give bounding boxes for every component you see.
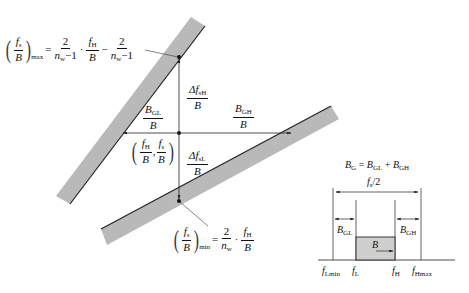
bgh-den: B [240, 118, 247, 130]
bgh-num: B [235, 102, 242, 114]
min-lhs-den: B [183, 241, 190, 253]
delta-fsh-label: ΔfsHB [186, 84, 209, 111]
lower-constraint-band [101, 106, 339, 245]
delta-fsh-num: Δf [189, 83, 199, 95]
max-t2-den: B [89, 51, 96, 63]
min-t1-den-sub: w [227, 245, 232, 253]
min-dot: · [235, 234, 239, 245]
delta-fsl-num: Δf [189, 149, 199, 161]
point-sep: , [153, 146, 156, 157]
point-y-den: B [158, 153, 165, 165]
bgl-num: B [145, 103, 152, 115]
max-lhs-den: B [15, 51, 22, 63]
inset-bgl-sub: GL [343, 229, 352, 237]
max-lhs-num-sub: s [19, 41, 22, 49]
delta-fsh-sub: sH [199, 89, 207, 97]
max-t1-den-tail: −1 [65, 49, 77, 61]
operating-point [177, 131, 181, 135]
bgh-sub: GH [242, 108, 252, 116]
bg-plus: + [385, 159, 391, 170]
point-x-sub: H [145, 143, 150, 151]
min-t1-num: 2 [222, 226, 232, 239]
min-equals: = [212, 234, 218, 245]
tick-fh: fH [392, 266, 400, 278]
tick-fl: fL [352, 266, 359, 278]
max-formula: ( fsB ) max = 2nw−1 · fHB − 2nw−1 [4, 36, 134, 63]
bg-sub: G [351, 164, 356, 172]
max-t2-num-sub: H [91, 41, 96, 49]
delta-fsl-sub: sL [199, 155, 206, 163]
bg-bgl-sub: GL [373, 164, 382, 172]
bgl-ratio-label: BGLB [142, 104, 164, 131]
delta-fsh-den: B [194, 99, 201, 111]
half-fs-label: fs/2 [367, 177, 380, 189]
point-y-sub: s [162, 143, 165, 151]
bgl-sub: GL [152, 109, 161, 117]
min-lhs-num-sub: s [187, 231, 190, 239]
bgh-ratio-label: BGHB [232, 103, 255, 130]
max-t3-den-tail: −1 [121, 49, 133, 61]
tick-flmin-sub: Lmin [325, 270, 340, 278]
min-t2-num-sub: H [247, 231, 252, 239]
max-equals: = [45, 44, 51, 55]
inset-bgl-label: BGL [337, 225, 352, 237]
max-minus: − [102, 44, 108, 55]
delta-fsl-den: B [194, 165, 201, 177]
operating-point-label: ( fHB , fsB ) [130, 138, 176, 165]
tick-fh-sub: H [395, 270, 400, 278]
min-formula: ( fsB ) min = 2nw · fHB [172, 226, 255, 253]
max-t3-num: 2 [117, 36, 127, 49]
delta-fsl-label: ΔfsLB [186, 150, 209, 177]
half-fs-tail: /2 [373, 176, 381, 187]
bg-eq: = [359, 159, 365, 170]
tick-fhmax-sub: Hmax [415, 270, 432, 278]
min-leader-line [180, 202, 208, 226]
tick-fl-sub: L [355, 270, 359, 278]
max-subscript: max [31, 54, 43, 61]
tick-flmin: fLmin [322, 266, 340, 278]
guard-band-equation: BG = BGL + BGH [345, 160, 409, 172]
inset-bgh-sub: GH [406, 229, 416, 237]
bg-bgh-sub: GH [399, 164, 409, 172]
min-subscript: min [199, 244, 210, 251]
point-x-den: B [142, 153, 149, 165]
max-dot: · [80, 44, 84, 55]
max-t1-num: 2 [61, 36, 71, 49]
min-t2-den: B [244, 241, 251, 253]
inset-bgh-label: BGH [400, 225, 416, 237]
bgl-den: B [150, 119, 157, 131]
inset-b-label: B [372, 240, 378, 250]
tick-fhmax: fHmax [412, 266, 432, 278]
